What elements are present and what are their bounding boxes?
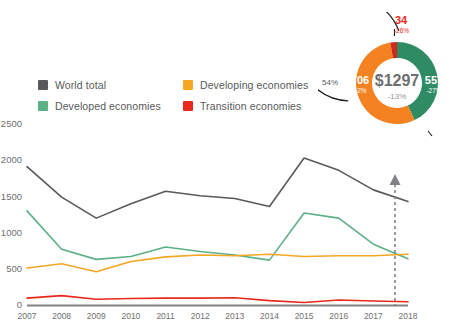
legend-swatch-icon xyxy=(38,80,48,90)
x-axis-labels: 2007200820092010201120122013201420152016… xyxy=(18,311,418,321)
legend-item-developing-economies: Developing economies xyxy=(183,79,328,91)
legend-item-label: World total xyxy=(55,79,106,91)
donut-center-change: -13% xyxy=(388,92,407,101)
y-axis-tick-label: 0 xyxy=(17,299,22,310)
x-axis-tick-label: 2011 xyxy=(156,311,175,321)
donut-center-value: $1297 xyxy=(375,72,420,89)
y-axis-tick-label: 500 xyxy=(6,263,22,274)
donut-chart: 54% 34 -26% 706 +2% 557 -27% $1297 -13% xyxy=(318,12,459,138)
x-axis-tick-label: 2008 xyxy=(52,311,71,321)
y-axis-tick-label: 1000 xyxy=(1,227,22,238)
legend-item-label: Transition economies xyxy=(200,100,301,112)
legend-item-developed-economies: Developed economies xyxy=(38,100,183,112)
x-axis-tick-label: 2014 xyxy=(260,311,279,321)
series-line-developed-economies xyxy=(27,211,408,260)
legend-item-transition-economies: Transition economies xyxy=(183,100,328,112)
donut-segment-change-developing: +2% xyxy=(353,87,366,94)
y-axis-labels: 05001000150020002500 xyxy=(1,118,22,310)
donut-outer-percent-label: 54% xyxy=(322,78,338,87)
x-axis-tick-label: 2009 xyxy=(87,311,106,321)
x-axis-tick-label: 2015 xyxy=(295,311,314,321)
donut-segment-value-transition: 34 xyxy=(395,14,408,26)
x-axis-tick-label: 2013 xyxy=(225,311,244,321)
y-axis-tick-label: 2000 xyxy=(1,154,22,165)
legend-item-label: Developed economies xyxy=(55,100,161,112)
legend-item-label: Developing economies xyxy=(200,79,308,91)
line-chart: 05001000150020002500 2007200820092010201… xyxy=(0,112,440,336)
x-axis-tick-label: 2018 xyxy=(399,311,418,321)
series-layer xyxy=(27,158,408,302)
donut-segment-value-developed: 557 xyxy=(425,74,443,86)
legend-swatch-icon xyxy=(38,101,48,111)
x-axis-tick-label: 2016 xyxy=(329,311,348,321)
series-line-transition-economies xyxy=(27,296,408,303)
x-axis-tick-label: 2007 xyxy=(18,311,37,321)
chart-legend: World total Developing economies Develop… xyxy=(38,74,318,116)
series-line-world-total xyxy=(27,158,408,218)
legend-swatch-icon xyxy=(183,80,193,90)
y-axis-tick-label: 2500 xyxy=(1,118,22,129)
legend-item-world-total: World total xyxy=(38,79,183,91)
x-axis-tick-label: 2017 xyxy=(364,311,383,321)
donut-segment-change-transition: -26% xyxy=(394,27,409,34)
forecast-marker xyxy=(390,174,401,305)
legend-swatch-icon xyxy=(183,101,193,111)
series-line-developing-economies xyxy=(27,254,408,271)
arrow-up-icon xyxy=(390,174,401,185)
donut-segment-change-developed: -27% xyxy=(426,87,441,94)
bracket-tick-bottom xyxy=(428,131,432,136)
x-axis-tick-label: 2010 xyxy=(121,311,140,321)
x-axis-tick-label: 2012 xyxy=(191,311,210,321)
donut-segment-value-developing: 706 xyxy=(351,74,369,86)
y-axis-tick-label: 1500 xyxy=(1,191,22,202)
